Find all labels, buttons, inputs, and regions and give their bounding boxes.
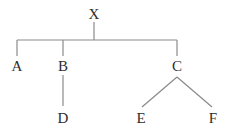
- edge-c-f: [177, 77, 212, 107]
- node-a: A: [12, 58, 23, 74]
- node-d: D: [58, 110, 69, 126]
- edges: [17, 22, 212, 107]
- node-c: C: [172, 58, 182, 74]
- node-e: E: [136, 110, 145, 126]
- node-f: F: [209, 110, 217, 126]
- nodes: X A B C D E F: [12, 6, 218, 126]
- tree-diagram: X A B C D E F: [0, 0, 228, 133]
- edge-c-e: [142, 77, 177, 107]
- node-b: B: [58, 58, 68, 74]
- node-x: X: [89, 6, 100, 22]
